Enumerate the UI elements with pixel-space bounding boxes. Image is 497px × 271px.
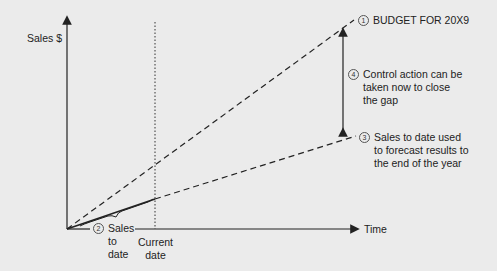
number-4-icon: 4 bbox=[348, 69, 359, 80]
forecast-line-3: the end of the year bbox=[359, 157, 469, 170]
annotation-forecast: 3Sales to date used to forecast results … bbox=[359, 131, 469, 170]
sales-to-date-line-3: date bbox=[93, 248, 134, 261]
number-3-icon: 3 bbox=[359, 132, 370, 143]
number-1-icon: 1 bbox=[358, 15, 369, 26]
sales-to-date-line-2: to bbox=[93, 235, 134, 248]
control-line-3: the gap bbox=[348, 94, 462, 107]
x-axis-label: Time bbox=[364, 223, 387, 236]
budget-label: BUDGET FOR 20X9 bbox=[373, 14, 469, 26]
annotation-control-action: 4Control action can be taken now to clos… bbox=[348, 68, 462, 107]
current-date-label: Current date bbox=[138, 236, 173, 262]
current-date-line-1: Current bbox=[138, 236, 173, 249]
current-date-line-2: date bbox=[138, 249, 173, 262]
control-line-2: taken now to close bbox=[348, 81, 462, 94]
annotation-sales-to-date: 2Sales to date bbox=[93, 222, 134, 261]
forecast-line bbox=[155, 136, 356, 199]
control-line-1: Control action can be bbox=[363, 68, 462, 80]
forecast-line-1: Sales to date used bbox=[374, 131, 461, 143]
budget-line bbox=[67, 20, 354, 229]
sales-to-date-line-1: Sales bbox=[108, 222, 134, 234]
y-axis-label: Sales $ bbox=[27, 32, 62, 45]
forecast-line-2: to forecast results to bbox=[359, 144, 469, 157]
annotation-budget: 1BUDGET FOR 20X9 bbox=[358, 14, 469, 27]
number-2-icon: 2 bbox=[93, 223, 104, 234]
